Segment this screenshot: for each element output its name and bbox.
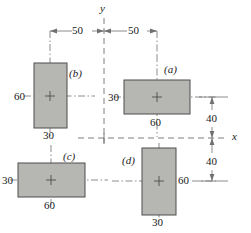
rect-tag-d: (d) bbox=[122, 155, 135, 166]
rect-tag-a: (a) bbox=[164, 64, 177, 75]
rectangle-b bbox=[34, 63, 67, 128]
dimension-top-left: 50 bbox=[72, 25, 83, 36]
rect-height-label-c: 30 bbox=[2, 175, 13, 186]
rect-height-label-a: 30 bbox=[108, 92, 119, 103]
right-dimension-group bbox=[199, 97, 228, 181]
rect-width-label-c: 60 bbox=[44, 200, 55, 211]
dimension-right-upper: 40 bbox=[206, 113, 217, 124]
rect-width-label-b: 30 bbox=[43, 130, 54, 141]
arrow-bottom-outer bbox=[210, 174, 215, 181]
rect-tag-c: (c) bbox=[63, 151, 75, 162]
y-axis-label: y bbox=[100, 3, 105, 14]
x-axis-label: x bbox=[232, 131, 237, 142]
rect-height-label-d: 60 bbox=[178, 175, 189, 186]
arrow-bottom-inner bbox=[210, 138, 215, 145]
engineering-figure: y x 50 50 40 40 (b) 60 30 (a) 30 60 (c) … bbox=[0, 0, 251, 233]
arrow-top-inner bbox=[210, 131, 215, 138]
rect-tag-b: (b) bbox=[69, 68, 82, 79]
top-dimension-group bbox=[50, 31, 157, 55]
arrow-left-outer bbox=[50, 29, 57, 34]
arrow-right-inner bbox=[104, 29, 111, 34]
arrow-left-inner bbox=[97, 29, 104, 34]
rect-width-label-d: 30 bbox=[152, 217, 163, 228]
arrow-top-outer bbox=[210, 97, 215, 104]
arrow-right-outer bbox=[150, 29, 157, 34]
rect-height-label-b: 60 bbox=[14, 91, 25, 102]
dimension-top-right: 50 bbox=[128, 25, 139, 36]
rect-width-label-a: 60 bbox=[150, 117, 161, 128]
dimension-right-lower: 40 bbox=[206, 156, 217, 167]
